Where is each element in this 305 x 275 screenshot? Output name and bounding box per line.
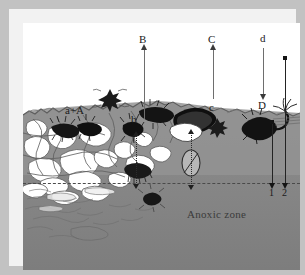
organism-label-c: c: [209, 102, 214, 113]
organism-label-D: D: [258, 100, 266, 111]
organism-label-a-plus-A: a+A: [65, 105, 84, 116]
figure-mat: B C c d D 1: [9, 9, 296, 266]
flux-label-1: 1: [269, 187, 274, 198]
figure-frame: B C c d D 1: [0, 0, 305, 275]
organism-label-b: b: [131, 114, 137, 125]
diagram-panel: B C c d D 1: [23, 23, 300, 270]
oxic-anoxic-boundary: [23, 183, 300, 184]
anoxic-zone-label: Anoxic zone: [187, 208, 246, 220]
flux-label-2: 2: [282, 187, 287, 198]
sediment-artwork: [23, 23, 300, 270]
flux-label-d: d: [260, 33, 266, 44]
flux-label-B: B: [139, 34, 146, 45]
flux-label-C: C: [208, 34, 215, 45]
